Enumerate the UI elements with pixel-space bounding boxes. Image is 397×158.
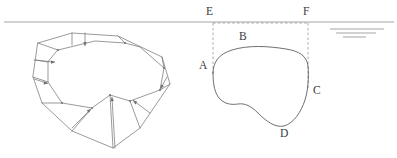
label-b: B: [239, 31, 247, 43]
solid-vertex-dots: [57, 42, 165, 109]
label-a: A: [199, 60, 207, 72]
figure-container: A B C D E F: [0, 0, 397, 158]
label-d: D: [280, 128, 288, 140]
edge-connector: [130, 101, 140, 128]
normal-arrow: [72, 109, 91, 128]
label-f: F: [303, 6, 309, 18]
edge-connector: [38, 43, 58, 50]
figure-canvas: [0, 0, 397, 158]
cross-section-diagram: [213, 23, 308, 126]
label-c: C: [313, 85, 321, 97]
edge-connector: [118, 36, 125, 43]
normal-arrow: [133, 100, 150, 113]
water-surface-group: [4, 22, 394, 37]
solid-inner-cross-section: [48, 41, 164, 108]
cross-section-outline: [213, 47, 308, 127]
normal-arrow: [34, 60, 56, 64]
label-e: E: [206, 6, 213, 18]
normal-arrow: [83, 33, 86, 47]
three-dimensional-solid: [33, 33, 170, 148]
